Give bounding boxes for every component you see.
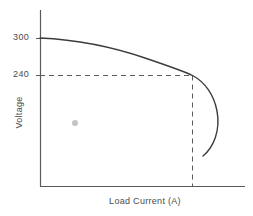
x-axis-label: Load Current (A) [60, 197, 230, 206]
y-axis-label: Voltage [15, 83, 24, 143]
load-characteristic-curve [40, 38, 218, 156]
chart-container: 300 240 Voltage Load Current (A) [0, 0, 253, 216]
y-tick-label-300: 300 [13, 33, 29, 42]
y-tick-label-240: 240 [13, 70, 29, 79]
stray-mark-dot [72, 120, 78, 126]
chart-plot-area [0, 0, 253, 216]
